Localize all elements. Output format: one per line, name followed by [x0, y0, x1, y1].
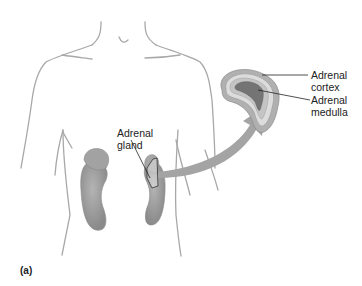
label-line: cortex: [311, 81, 347, 93]
magnify-arrow: [158, 106, 266, 178]
panel-label: (a): [20, 265, 32, 276]
label-line: Adrenal: [311, 69, 347, 81]
label-adrenal-gland: Adrenal gland: [117, 127, 153, 151]
left-kidney: [81, 148, 109, 230]
label-adrenal-medulla: Adrenal medulla: [311, 94, 348, 118]
label-adrenal-cortex: Adrenal cortex: [311, 69, 347, 93]
label-line: medulla: [311, 106, 348, 118]
adrenal-diagram: [0, 0, 362, 286]
label-line: Adrenal: [117, 127, 153, 139]
label-line: gland: [117, 139, 153, 151]
label-line: Adrenal: [311, 94, 348, 106]
